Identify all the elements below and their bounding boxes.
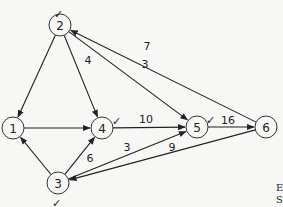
graph-svg: 4731016639 12✓3✓4✓5✓6 bbox=[0, 0, 283, 207]
edge-weight-6-3: 9 bbox=[169, 141, 176, 154]
edge-3-to-1 bbox=[21, 137, 51, 174]
graph-diagram: 4731016639 12✓3✓4✓5✓6 E S bbox=[0, 0, 283, 207]
edge-4-to-5 bbox=[113, 127, 185, 128]
check-mark-icon: ✓ bbox=[54, 8, 63, 21]
node-6: 6 bbox=[255, 116, 277, 138]
edge-weight-3-5: 3 bbox=[124, 141, 131, 154]
node-1: 1 bbox=[2, 117, 24, 139]
node-label: 6 bbox=[262, 121, 270, 135]
check-mark-icon: ✓ bbox=[206, 114, 215, 127]
node-2: 2✓ bbox=[49, 8, 71, 36]
edge-2-to-1 bbox=[18, 35, 55, 117]
edge-6-to-2 bbox=[71, 30, 256, 122]
edge-weight-2-4: 4 bbox=[85, 54, 92, 67]
node-3: 3✓ bbox=[47, 172, 69, 207]
node-label: 5 bbox=[193, 121, 201, 135]
check-mark-icon: ✓ bbox=[112, 115, 121, 128]
node-label: 4 bbox=[98, 122, 106, 136]
edge-2-to-4 bbox=[64, 35, 97, 117]
edge-weight-6-2: 7 bbox=[144, 40, 151, 53]
check-mark-icon: ✓ bbox=[52, 197, 61, 207]
node-5: 5✓ bbox=[186, 114, 215, 138]
node-label: 1 bbox=[9, 122, 17, 136]
node-label: 2 bbox=[56, 19, 64, 33]
nodes-group: 12✓3✓4✓5✓6 bbox=[2, 8, 277, 207]
node-4: 4✓ bbox=[91, 115, 121, 139]
edge-weight-2-5: 3 bbox=[142, 58, 149, 71]
edge-weight-3-4: 6 bbox=[87, 152, 94, 165]
edge-2-to-5 bbox=[69, 32, 188, 120]
edges-group: 4731016639 bbox=[18, 30, 256, 180]
edge-weight-4-5: 10 bbox=[139, 113, 153, 126]
node-label: 3 bbox=[54, 177, 62, 191]
edge-weight-5-6: 16 bbox=[221, 114, 235, 127]
caption-fragment-2: S bbox=[276, 195, 283, 205]
caption-fragment-1: E bbox=[276, 183, 283, 193]
